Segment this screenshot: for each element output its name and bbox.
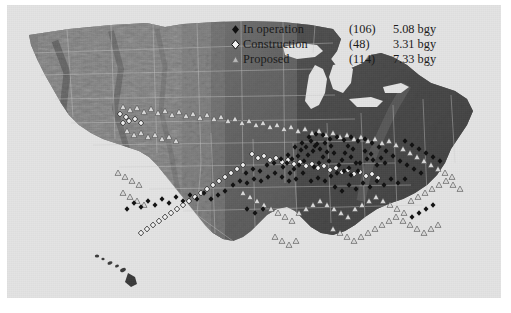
legend-count-in-operation: (106) [349, 22, 393, 37]
marker-proposed [289, 218, 295, 223]
legend-row-in-operation: In operation (106) 5.08 bgy [228, 22, 436, 37]
legend-value-proposed: 7.33 bgy [393, 52, 436, 67]
marker-operation [125, 206, 130, 211]
marker-construction [150, 222, 155, 228]
marker-construction [174, 206, 179, 212]
marker-proposed [401, 210, 407, 215]
marker-construction [162, 214, 167, 220]
marker-proposed [443, 178, 449, 183]
marker-proposed [435, 222, 441, 227]
marker-proposed [414, 226, 420, 231]
marker-proposed [275, 210, 281, 215]
hawaii-inset [95, 255, 137, 288]
legend: In operation (106) 5.08 bgy Construction… [228, 22, 436, 67]
legend-label-in-operation: In operation [243, 22, 349, 37]
marker-proposed [457, 186, 463, 191]
open-diamond-icon [228, 37, 243, 52]
marker-proposed [282, 214, 288, 219]
legend-count-proposed: (114) [349, 52, 393, 67]
filled-diamond-icon [228, 22, 243, 37]
marker-proposed [449, 174, 455, 179]
legend-label-construction: Construction [243, 37, 349, 52]
marker-proposed [436, 182, 442, 187]
marker-operation [153, 202, 158, 207]
map-panel: In operation (106) 5.08 bgy Construction… [7, 5, 501, 298]
marker-construction [138, 230, 143, 236]
triangle-icon [228, 52, 243, 67]
legend-label-proposed: Proposed [243, 52, 349, 67]
marker-operation [146, 198, 151, 203]
marker-proposed [393, 214, 399, 219]
legend-value-in-operation: 5.08 bgy [393, 22, 436, 37]
marker-operation [174, 194, 179, 199]
marker-operation [167, 200, 172, 205]
figure-root: In operation (106) 5.08 bgy Construction… [0, 0, 511, 313]
marker-construction [144, 226, 149, 232]
marker-proposed [127, 194, 133, 199]
marker-operation [160, 196, 165, 201]
marker-proposed [365, 230, 371, 235]
marker-proposed [286, 242, 292, 247]
marker-proposed [407, 222, 413, 227]
marker-proposed [272, 234, 278, 239]
marker-proposed [129, 178, 135, 183]
marker-proposed [450, 182, 456, 187]
marker-proposed [429, 186, 435, 191]
marker-proposed [442, 170, 448, 175]
marker-operation [431, 202, 436, 207]
marker-proposed [122, 174, 128, 179]
marker-proposed [372, 226, 378, 231]
marker-proposed [136, 182, 142, 187]
marker-proposed [115, 170, 121, 175]
marker-proposed [351, 238, 357, 243]
legend-row-construction: Construction (48) 3.31 bgy [228, 37, 436, 52]
marker-construction [156, 218, 161, 224]
marker-proposed [394, 206, 400, 211]
marker-proposed [400, 218, 406, 223]
marker-proposed [279, 238, 285, 243]
marker-proposed [379, 222, 385, 227]
marker-construction [168, 210, 173, 216]
marker-proposed [386, 218, 392, 223]
marker-proposed [358, 234, 364, 239]
marker-proposed [421, 230, 427, 235]
marker-proposed [293, 238, 299, 243]
marker-proposed [408, 198, 414, 203]
marker-proposed [344, 234, 350, 239]
marker-proposed [415, 194, 421, 199]
legend-value-construction: 3.31 bgy [393, 37, 436, 52]
marker-proposed [428, 226, 434, 231]
marker-operation [410, 214, 415, 219]
marker-proposed [120, 190, 126, 195]
marker-operation [417, 210, 422, 215]
marker-operation [424, 206, 429, 211]
legend-count-construction: (48) [349, 37, 393, 52]
legend-row-proposed: Proposed (114) 7.33 bgy [228, 52, 436, 67]
